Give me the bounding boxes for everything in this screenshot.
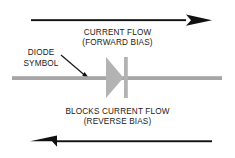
diode-symbol-graphic [106, 57, 128, 98]
reverse-arrow-shaft [56, 140, 212, 142]
diagram-canvas [0, 0, 235, 158]
diode-cathode-bar-icon [124, 57, 128, 98]
forward-bias-label-line2: (FORWARD BIAS) [0, 38, 235, 48]
reverse-bias-label-line2: (REVERSE BIAS) [0, 117, 235, 127]
diode-triangle-icon [106, 57, 124, 98]
reverse-arrow-head-icon [30, 136, 57, 147]
forward-arrow-head-icon [186, 15, 212, 26]
forward-current-arrow [31, 15, 212, 26]
diode-symbol-label-line1: DIODE [8, 48, 74, 59]
diode-symbol-label: DIODE SYMBOL [8, 48, 74, 69]
reverse-bias-label-line1: BLOCKS CURRENT FLOW [0, 107, 235, 117]
forward-bias-label: CURRENT FLOW (FORWARD BIAS) [0, 28, 235, 48]
reverse-bias-label: BLOCKS CURRENT FLOW (REVERSE BIAS) [0, 107, 235, 127]
forward-bias-label-line1: CURRENT FLOW [0, 28, 235, 38]
reverse-current-arrow [30, 136, 212, 147]
diode-symbol-label-line2: SYMBOL [8, 59, 74, 70]
diode-diagram: CURRENT FLOW (FORWARD BIAS) DIODE SYMBOL… [0, 0, 235, 158]
forward-arrow-shaft [31, 19, 186, 21]
